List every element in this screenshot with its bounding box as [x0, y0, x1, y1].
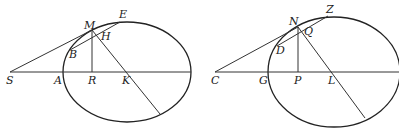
figure-right: NZQDCGPL	[211, 3, 399, 127]
point-label: P	[293, 74, 302, 87]
point-label: Z	[325, 3, 334, 16]
point-label: E	[118, 8, 127, 21]
figure-left: MEHBSARK	[6, 8, 191, 122]
line-segment	[277, 16, 328, 46]
point-label: M	[83, 19, 96, 32]
point-label: L	[327, 74, 335, 87]
point-label: A	[53, 74, 62, 87]
ellipse-diagram: MEHBSARKNZQDCGPL	[0, 0, 399, 129]
point-label: G	[259, 74, 268, 87]
point-label: D	[275, 44, 285, 57]
point-label: H	[100, 30, 111, 43]
point-label: N	[288, 15, 299, 28]
point-label: R	[87, 74, 96, 87]
point-label: C	[211, 74, 220, 87]
line-segment	[10, 30, 92, 72]
line-segment	[215, 27, 298, 72]
point-label: B	[68, 48, 77, 61]
point-label: S	[6, 74, 14, 87]
point-label: K	[121, 74, 131, 87]
point-label: Q	[304, 25, 313, 38]
